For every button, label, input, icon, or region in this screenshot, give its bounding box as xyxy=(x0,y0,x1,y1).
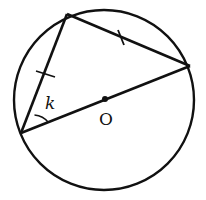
circle-triangle-diagram: k O xyxy=(0,0,206,200)
angle-arc-k xyxy=(35,115,49,123)
angle-label-k: k xyxy=(45,93,55,113)
center-label-o: O xyxy=(99,109,113,129)
center-point xyxy=(102,96,108,102)
